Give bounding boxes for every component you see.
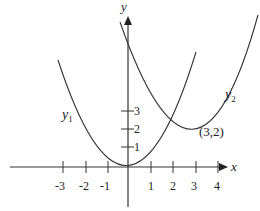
curve-y2-label: y2 bbox=[223, 87, 236, 104]
svg-text:1: 1 bbox=[134, 140, 140, 154]
svg-text:-3: -3 bbox=[55, 179, 65, 193]
parabola-chart: x y -3 -2 -1 1 2 3 4 1 2 3 y1 y2 (3,2) bbox=[0, 0, 260, 211]
y-tick-labels: 1 2 3 bbox=[134, 104, 140, 154]
y-axis-arrow-icon bbox=[124, 16, 132, 25]
y-axis-label: y bbox=[119, 0, 127, 14]
svg-text:2: 2 bbox=[170, 179, 176, 193]
x-axis-label: x bbox=[230, 159, 237, 174]
svg-text:4: 4 bbox=[214, 179, 220, 193]
svg-text:1: 1 bbox=[148, 179, 154, 193]
x-axis-arrow-icon bbox=[219, 163, 228, 171]
svg-text:3: 3 bbox=[134, 104, 140, 118]
svg-text:-2: -2 bbox=[79, 179, 89, 193]
svg-text:-1: -1 bbox=[100, 179, 110, 193]
svg-text:3: 3 bbox=[191, 179, 197, 193]
curve-y1-label: y1 bbox=[60, 107, 73, 124]
x-tick-labels: -3 -2 -1 1 2 3 4 bbox=[55, 179, 220, 193]
vertex-annotation: (3,2) bbox=[199, 124, 224, 139]
curve-y1 bbox=[58, 52, 196, 166]
svg-text:2: 2 bbox=[134, 122, 140, 136]
